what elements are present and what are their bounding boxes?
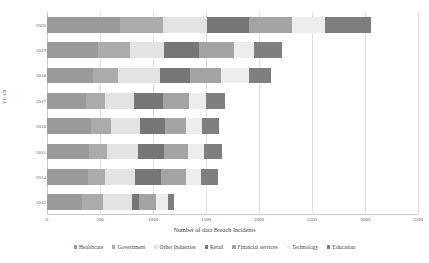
stacked-bar[interactable] [47, 93, 225, 109]
legend-swatch-icon [154, 245, 157, 248]
bar-segment[interactable] [186, 169, 201, 185]
bar-segment[interactable] [89, 144, 106, 160]
bar-segment[interactable] [207, 17, 249, 33]
bar-segment[interactable] [118, 68, 160, 84]
bar-segment[interactable] [88, 169, 105, 185]
stacked-bar[interactable] [47, 118, 219, 134]
stacked-bar-chart: YEAR 0500100015002000250030003500 202020… [0, 0, 429, 263]
bar-row [47, 68, 418, 84]
x-axis-line [47, 214, 418, 215]
bar-segment[interactable] [47, 42, 98, 58]
bar-segment[interactable] [47, 93, 86, 109]
bar-segment[interactable] [47, 144, 89, 160]
legend-label: Healthcare [79, 244, 103, 250]
legend-item[interactable]: Financial services [232, 244, 277, 250]
bar-segment[interactable] [221, 68, 250, 84]
bar-segment[interactable] [168, 194, 174, 210]
legend-label: Education [332, 244, 355, 250]
legend-swatch-icon [74, 245, 77, 248]
x-tick-label: 3500 [413, 217, 423, 222]
bar-segment[interactable] [47, 17, 120, 33]
bar-segment[interactable] [199, 42, 234, 58]
y-tick-label: 2014 [36, 174, 46, 179]
legend-swatch-icon [232, 245, 235, 248]
stacked-bar[interactable] [47, 144, 222, 160]
bar-segment[interactable] [134, 93, 163, 109]
legend-swatch-icon [205, 245, 208, 248]
bar-segment[interactable] [234, 42, 254, 58]
bar-segment[interactable] [111, 118, 140, 134]
stacked-bar[interactable] [47, 169, 218, 185]
bar-segment[interactable] [161, 169, 185, 185]
bar-segment[interactable] [201, 169, 218, 185]
stacked-bar[interactable] [47, 17, 371, 33]
bar-segment[interactable] [165, 118, 186, 134]
bar-segment[interactable] [325, 17, 372, 33]
bar-segment[interactable] [91, 118, 111, 134]
bar-segment[interactable] [105, 169, 135, 185]
bar-segment[interactable] [163, 93, 190, 109]
bar-segment[interactable] [139, 194, 156, 210]
bar-segment[interactable] [47, 68, 93, 84]
bar-segment[interactable] [135, 169, 162, 185]
bar-segment[interactable] [204, 144, 222, 160]
y-tick-label: 2018 [36, 73, 46, 78]
bar-segment[interactable] [254, 42, 283, 58]
bar-segment[interactable] [130, 42, 164, 58]
x-tick-label: 2000 [254, 217, 264, 222]
x-tick-label: 500 [96, 217, 104, 222]
bar-segment[interactable] [163, 17, 208, 33]
legend-label: Government [117, 244, 145, 250]
bar-segment[interactable] [47, 194, 82, 210]
bar-segment[interactable] [202, 118, 219, 134]
bar-segment[interactable] [189, 93, 206, 109]
chart-legend: HealthcareGovernmentOther IndustriesReta… [0, 244, 429, 250]
x-tick-label: 0 [46, 217, 49, 222]
bar-segment[interactable] [47, 169, 88, 185]
y-tick-label: 2013 [36, 200, 46, 205]
legend-item[interactable]: Healthcare [74, 244, 103, 250]
stacked-bar[interactable] [47, 194, 174, 210]
legend-swatch-icon [287, 245, 290, 248]
y-tick-label: 2019 [36, 48, 46, 53]
bar-segment[interactable] [120, 17, 162, 33]
x-tick-label: 3000 [360, 217, 370, 222]
x-tick-label: 2500 [307, 217, 317, 222]
x-axis-title: Number of data Breach Incidents [0, 226, 429, 233]
bar-row [47, 194, 418, 210]
y-tick-label: 2015 [36, 149, 46, 154]
y-tick-label: 2016 [36, 124, 46, 129]
bar-segment[interactable] [249, 17, 291, 33]
legend-item[interactable]: Retail [205, 244, 224, 250]
bar-segment[interactable] [107, 144, 138, 160]
legend-item[interactable]: Other Industries [154, 244, 195, 250]
legend-item[interactable]: Government [112, 244, 145, 250]
bar-segment[interactable] [132, 194, 139, 210]
bar-segment[interactable] [249, 68, 270, 84]
bar-segment[interactable] [93, 68, 118, 84]
bar-segment[interactable] [156, 194, 168, 210]
bar-segment[interactable] [82, 194, 103, 210]
bar-segment[interactable] [103, 194, 132, 210]
bar-segment[interactable] [164, 42, 199, 58]
bar-segment[interactable] [140, 118, 164, 134]
bar-segment[interactable] [47, 118, 91, 134]
bar-segment[interactable] [206, 93, 225, 109]
bar-segment[interactable] [292, 17, 325, 33]
bar-row [47, 93, 418, 109]
stacked-bar[interactable] [47, 42, 282, 58]
bar-segment[interactable] [188, 144, 203, 160]
bar-segment[interactable] [164, 144, 188, 160]
legend-label: Technology [292, 244, 318, 250]
bar-segment[interactable] [105, 93, 134, 109]
bar-segment[interactable] [86, 93, 105, 109]
legend-swatch-icon [327, 245, 330, 248]
legend-item[interactable]: Technology [287, 244, 319, 250]
stacked-bar[interactable] [47, 68, 271, 84]
bar-segment[interactable] [190, 68, 221, 84]
legend-item[interactable]: Education [327, 244, 355, 250]
bar-segment[interactable] [98, 42, 130, 58]
bar-segment[interactable] [186, 118, 202, 134]
bar-segment[interactable] [138, 144, 165, 160]
bar-segment[interactable] [160, 68, 190, 84]
